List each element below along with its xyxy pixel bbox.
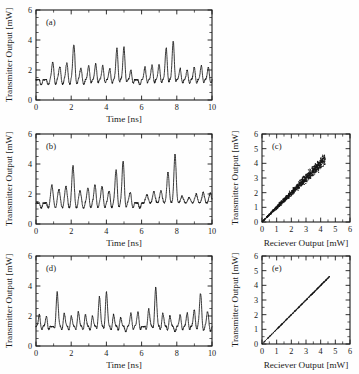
- panel-e-ticklabels: 01234560123456: [254, 252, 352, 356]
- svg-text:1: 1: [254, 203, 258, 212]
- panel-d: 02468100246 (d) Time [ns] Transmitter Ou…: [0, 246, 230, 374]
- svg-text:6: 6: [28, 130, 32, 139]
- panel-c-label: (c): [272, 141, 282, 151]
- panel-e-xlabel: Reciever Output [mW]: [264, 360, 349, 370]
- panel-a-frame: [36, 10, 212, 100]
- svg-text:4: 4: [319, 347, 323, 356]
- svg-text:2: 2: [69, 103, 73, 112]
- svg-text:2: 2: [28, 312, 32, 321]
- panel-b-label: (b): [46, 141, 56, 151]
- panel-e-ylabel: Transmitter Output [mW]: [230, 253, 240, 348]
- panel-e-label: (e): [272, 263, 282, 273]
- panel-c-scatter: [262, 154, 326, 222]
- panel-a-trace: [36, 41, 212, 85]
- svg-text:8: 8: [175, 349, 179, 358]
- svg-text:2: 2: [289, 347, 293, 356]
- svg-text:1: 1: [254, 325, 258, 334]
- panel-a-label: (a): [46, 17, 56, 27]
- svg-text:0: 0: [260, 225, 264, 234]
- svg-text:0: 0: [260, 347, 264, 356]
- panel-d-trace: [36, 287, 212, 332]
- panel-b: 02468100246 (b) Time [ns] Transmitter Ou…: [0, 124, 230, 252]
- svg-text:2: 2: [254, 189, 258, 198]
- svg-text:0: 0: [254, 218, 258, 227]
- panel-a-ticks: [36, 10, 212, 100]
- svg-text:6: 6: [140, 349, 144, 358]
- svg-text:10: 10: [208, 103, 216, 112]
- panel-a-plot-area: 02468100246: [28, 6, 216, 112]
- svg-text:8: 8: [175, 103, 179, 112]
- panel-b-ylabel: Transmitter Output [mW]: [4, 132, 14, 227]
- panel-d-svg: 02468100246 (d) Time [ns] Transmitter Ou…: [0, 246, 230, 374]
- svg-text:6: 6: [254, 130, 258, 139]
- svg-text:4: 4: [28, 282, 32, 291]
- panel-a: 02468100246 (a) Time [ns] Transmitter Ou…: [0, 0, 230, 128]
- svg-text:0: 0: [34, 103, 38, 112]
- svg-text:3: 3: [254, 296, 258, 305]
- panel-d-frame: [36, 256, 212, 346]
- svg-text:6: 6: [348, 347, 352, 356]
- panel-b-plot-area: 02468100246: [28, 130, 216, 236]
- svg-text:4: 4: [319, 225, 323, 234]
- svg-text:6: 6: [28, 252, 32, 261]
- svg-text:4: 4: [104, 103, 108, 112]
- svg-text:5: 5: [254, 145, 258, 154]
- svg-text:4: 4: [28, 160, 32, 169]
- svg-text:6: 6: [140, 103, 144, 112]
- panel-a-svg: 02468100246 (a) Time [ns] Transmitter Ou…: [0, 0, 230, 128]
- svg-text:1: 1: [275, 225, 279, 234]
- panel-a-ylabel: Transmitter Output [mW]: [4, 8, 14, 103]
- panel-e-svg: 01234560123456 (e) Reciever Output [mW] …: [228, 246, 359, 374]
- panel-d-ticks: [36, 256, 212, 346]
- panel-e-plot-area: 01234560123456: [254, 252, 352, 356]
- svg-text:0: 0: [254, 340, 258, 349]
- panel-e: 01234560123456 (e) Reciever Output [mW] …: [228, 246, 359, 374]
- svg-text:5: 5: [254, 267, 258, 276]
- svg-text:4: 4: [104, 349, 108, 358]
- svg-text:5: 5: [333, 225, 337, 234]
- svg-text:0: 0: [34, 227, 38, 236]
- svg-text:0: 0: [28, 96, 32, 105]
- svg-text:4: 4: [254, 281, 258, 290]
- svg-text:0: 0: [28, 220, 32, 229]
- svg-text:5: 5: [333, 347, 337, 356]
- panel-c-svg: 01234560123456 (c) Reciever Output [mW] …: [228, 124, 359, 252]
- panel-a-ticklabels: 02468100246: [28, 6, 216, 112]
- svg-text:0: 0: [28, 342, 32, 351]
- panel-d-ylabel: Transmitter Output [mW]: [4, 254, 14, 349]
- svg-text:3: 3: [254, 174, 258, 183]
- svg-text:3: 3: [304, 225, 308, 234]
- figure-canvas: 02468100246 (a) Time [ns] Transmitter Ou…: [0, 0, 359, 374]
- svg-text:2: 2: [254, 311, 258, 320]
- svg-text:6: 6: [254, 252, 258, 261]
- panel-d-xlabel: Time [ns]: [106, 360, 142, 370]
- svg-text:2: 2: [289, 225, 293, 234]
- svg-text:2: 2: [28, 66, 32, 75]
- svg-text:1: 1: [275, 347, 279, 356]
- svg-text:3: 3: [304, 347, 308, 356]
- svg-text:4: 4: [28, 36, 32, 45]
- svg-text:6: 6: [140, 227, 144, 236]
- panel-c-plot-area: 01234560123456: [254, 130, 352, 234]
- panel-e-scatter: [262, 276, 330, 344]
- svg-text:10: 10: [208, 349, 216, 358]
- svg-text:10: 10: [208, 227, 216, 236]
- panel-c-ylabel: Transmitter Output [mW]: [230, 131, 240, 226]
- svg-text:4: 4: [104, 227, 108, 236]
- panel-d-label: (d): [46, 263, 56, 273]
- svg-text:6: 6: [28, 6, 32, 15]
- svg-text:2: 2: [28, 190, 32, 199]
- svg-text:2: 2: [69, 227, 73, 236]
- panel-d-plot-area: 02468100246: [28, 252, 216, 358]
- panel-b-trace: [36, 154, 212, 208]
- panel-a-xlabel: Time [ns]: [106, 114, 142, 124]
- svg-text:4: 4: [254, 159, 258, 168]
- svg-text:2: 2: [69, 349, 73, 358]
- panel-c: 01234560123456 (c) Reciever Output [mW] …: [228, 124, 359, 252]
- svg-text:6: 6: [348, 225, 352, 234]
- svg-text:0: 0: [34, 349, 38, 358]
- svg-text:8: 8: [175, 227, 179, 236]
- panel-b-svg: 02468100246 (b) Time [ns] Transmitter Ou…: [0, 124, 230, 252]
